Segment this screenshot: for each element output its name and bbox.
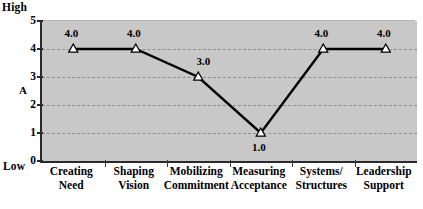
x-axis-category-label: Systems/Structures	[295, 165, 347, 192]
y-axis-tick-label: 4	[20, 43, 36, 55]
y-axis-tick-label: 3	[20, 71, 36, 83]
data-point-label: 4.0	[64, 27, 78, 39]
x-axis-category-label: MeasuringAcceptance	[231, 165, 287, 192]
data-point-label: 1.0	[252, 141, 266, 153]
x-axis-category-label-line1: Creating	[50, 165, 93, 177]
x-axis-category-label-line2: Support	[356, 179, 412, 193]
x-axis-category-label: CreatingNeed	[50, 165, 93, 192]
x-axis-category-label-line2: Commitment	[164, 179, 229, 193]
x-axis-category-label: MobilizingCommitment	[164, 165, 229, 192]
y-axis-anchor-high: High	[2, 1, 27, 13]
y-axis-tick-label: 2	[20, 99, 36, 111]
y-axis-title: A	[19, 84, 27, 96]
data-point-label: 4.0	[314, 27, 328, 39]
x-axis-category-label-line1: Shaping	[114, 165, 154, 177]
line-chart: High Low A 012345 4.04.03.01.04.04.0 Cre…	[0, 0, 423, 209]
x-axis-category-label: LeadershipSupport	[356, 165, 412, 192]
data-point-label: 4.0	[377, 27, 391, 39]
x-axis-category-label-line1: Systems/	[300, 165, 343, 177]
x-axis-tick-mark	[292, 160, 293, 167]
x-axis-category-label-line1: Measuring	[232, 165, 285, 177]
data-point-label: 4.0	[127, 27, 141, 39]
x-axis-category-label-line2: Acceptance	[231, 179, 287, 193]
data-point-label: 3.0	[196, 55, 210, 67]
plot-area	[40, 21, 417, 163]
x-axis-category-label: ShapingVision	[114, 165, 154, 192]
y-axis-tick-label: 0	[20, 155, 36, 167]
x-axis-tick-mark	[105, 160, 106, 167]
y-axis-tick-label: 1	[20, 127, 36, 139]
data-series	[42, 21, 417, 161]
x-axis-category-label-line2: Structures	[295, 179, 347, 193]
series-markers	[69, 44, 391, 136]
series-line	[73, 49, 386, 133]
x-axis-category-label-line1: Leadership	[356, 165, 412, 177]
x-axis-category-label-line1: Mobilizing	[170, 165, 223, 177]
x-axis-category-label-line2: Vision	[114, 179, 154, 193]
y-axis-tick-label: 5	[20, 15, 36, 27]
x-axis-category-label-line2: Need	[50, 179, 93, 193]
